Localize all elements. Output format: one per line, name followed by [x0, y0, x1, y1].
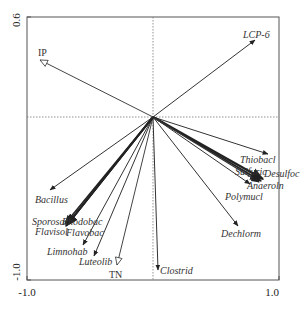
label-anaeroln: Anaeroln	[246, 180, 284, 191]
label-luteolib: Luteolib	[78, 256, 112, 267]
label-sulfuric: Sulfuric	[235, 166, 267, 177]
label-flavisol: Flavisol	[34, 226, 68, 237]
label-bacillus: Bacillus	[35, 194, 68, 205]
arrow-dechlorm	[153, 117, 238, 226]
x-axis-max-label: 1.0	[265, 286, 279, 298]
arrow-ip	[40, 60, 153, 117]
label-limnohab: Limnohab	[46, 246, 88, 257]
label-dechlorm: Dechlorm	[220, 228, 261, 239]
y-axis-min-label: -1.0	[10, 263, 22, 281]
rda-biplot: -1.0 1.0 0.6 -1.0 IP LCP-6 Thiobacl Sulf…	[0, 0, 306, 309]
label-clostrid: Clostrid	[160, 265, 194, 276]
label-lcp6: LCP-6	[242, 29, 270, 40]
label-polymucl: Polymucl	[224, 191, 263, 202]
arrow-clostrid	[153, 117, 158, 270]
label-tn: TN	[109, 269, 122, 280]
label-flavobac: Flavobac	[65, 227, 104, 238]
y-axis-max-label: 0.6	[10, 13, 22, 27]
x-axis-min-label: -1.0	[18, 286, 36, 298]
label-thiobacl: Thiobacl	[240, 154, 276, 165]
label-desulfoc: Desulfoc	[263, 168, 300, 179]
label-rhodobac: Rhodobac	[61, 216, 103, 227]
label-ip: IP	[38, 47, 47, 58]
arrow-lcp6	[153, 40, 255, 117]
